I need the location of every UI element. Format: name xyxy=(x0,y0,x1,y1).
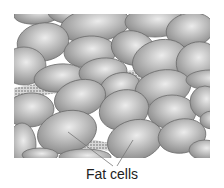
fat-cell xyxy=(59,149,111,165)
fat-cell-group xyxy=(2,2,224,167)
tissue-region xyxy=(2,2,224,167)
fat-cells-diagram xyxy=(0,0,224,188)
fat-cell xyxy=(22,148,58,162)
fat-cells-label: Fat cells xyxy=(0,166,224,182)
fat-cell xyxy=(200,111,224,129)
fat-cell xyxy=(8,123,36,167)
fat-cell xyxy=(189,140,221,160)
